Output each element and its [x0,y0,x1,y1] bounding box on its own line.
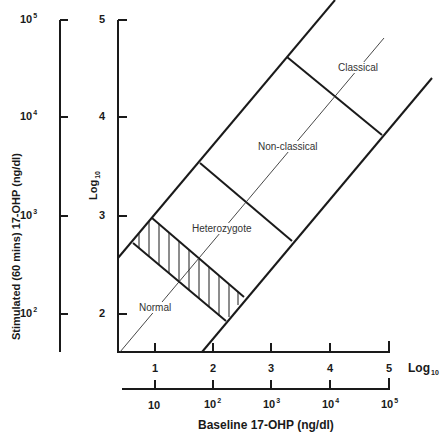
x-log-axis-label: Log10 [408,361,439,376]
y-axis-title: Stimulated (60 mins) 17-OHP (ng/dl) [10,153,22,340]
region-nonclassical-label: Non-classical [257,141,318,152]
y-linear-tick-1e5: 105 [20,12,37,25]
y-log-tick-4: 4 [99,110,105,122]
y-log-axis-label: Log10 [87,171,101,200]
x-axis-title: Baseline 17-OHP (ng/dl) [198,418,334,432]
y-linear-tick-1e2: 102 [20,306,37,319]
x-linear-tick-1e3: 103 [263,397,280,410]
y-log-tick-3: 3 [99,209,105,221]
x-log-tick-1: 1 [152,362,158,374]
x-log-tick-4: 4 [327,362,333,374]
x-log-tick-5: 5 [386,362,392,374]
region-normal-label: Normal [138,302,172,313]
x-linear-tick-10: 10 [148,398,161,411]
nomogram-lines [0,0,447,437]
y-log-tick-2: 2 [99,307,105,319]
x-linear-tick-1e2: 102 [204,397,221,410]
y-log-tick-5: 5 [99,13,105,25]
region-heterozygote-label: Heterozygote [191,223,252,234]
y-linear-tick-1e3: 103 [20,208,37,221]
x-linear-tick-1e5: 105 [381,397,398,410]
x-log-tick-2: 2 [210,362,216,374]
region-classical-label: Classical [337,62,379,73]
x-linear-tick-1e4: 104 [322,397,339,410]
x-log-tick-3: 3 [268,362,274,374]
y-linear-tick-1e4: 104 [20,109,37,122]
